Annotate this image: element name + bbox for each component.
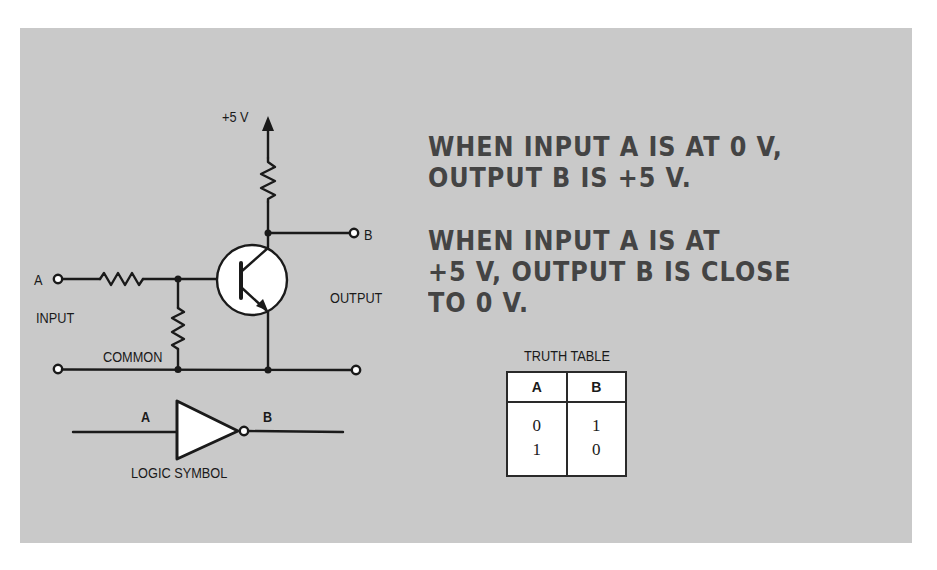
supply-rail — [261, 128, 275, 247]
truth-table-title: TRUTH TABLE — [516, 347, 618, 364]
bias-resistor — [172, 308, 184, 349]
common-label: COMMON — [103, 348, 162, 365]
truth-table-header-row: A B — [507, 372, 626, 402]
note-low-input: WHEN INPUT A IS AT 0 V, OUTPUT B IS +5 V… — [428, 132, 783, 194]
note-high-input: WHEN INPUT A IS AT +5 V, OUTPUT B IS CLO… — [428, 226, 792, 319]
logic-input-label: A — [141, 409, 150, 425]
cell-a: 1 — [507, 439, 567, 476]
column-header-b: B — [567, 372, 627, 402]
logic-symbol-caption: LOGIC SYMBOL — [131, 464, 228, 481]
junction-dot — [175, 366, 182, 373]
supply-arrow-icon — [262, 116, 274, 131]
common-right-terminal — [352, 366, 360, 374]
transistor-body — [217, 245, 287, 315]
junction-dot — [265, 367, 272, 374]
column-header-a: A — [507, 372, 567, 402]
junction-dot — [265, 230, 272, 237]
input-a-label: A — [34, 271, 43, 288]
table-row: 0 1 — [507, 402, 626, 439]
input-label: INPUT — [36, 309, 75, 326]
output-b-label: B — [364, 226, 373, 243]
output-label: OUTPUT — [330, 289, 383, 306]
junction-dot — [175, 276, 182, 283]
common-wire — [62, 370, 352, 371]
cell-b: 1 — [567, 402, 627, 439]
table-row: 1 0 — [507, 439, 626, 476]
collector-resistor — [261, 158, 275, 202]
output-b-terminal — [350, 229, 358, 237]
input-resistor — [100, 273, 143, 285]
truth-table: A B 0 1 1 0 — [506, 371, 627, 477]
logic-output-wire — [248, 431, 343, 432]
cell-a: 0 — [507, 402, 567, 439]
logic-output-label: B — [263, 409, 272, 425]
supply-voltage-label: +5 V — [222, 108, 249, 125]
inverter-triangle-icon — [177, 401, 238, 459]
cell-b: 0 — [567, 439, 627, 476]
